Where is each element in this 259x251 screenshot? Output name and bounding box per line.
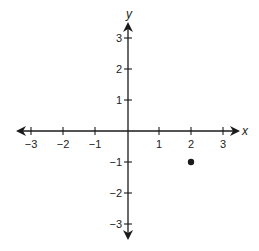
y-tick-label: −2	[109, 187, 122, 199]
x-tick-label: −1	[89, 138, 102, 150]
data-point	[188, 159, 194, 165]
y-tick-label: 1	[116, 94, 122, 106]
y-tick-label: −3	[109, 218, 122, 230]
coordinate-plane: −3 −2 −1 1 2 3 3 2 1 −1 −2 −3 x y	[0, 0, 259, 251]
x-tick-label: 2	[188, 138, 194, 150]
y-tick-label: 2	[116, 63, 122, 75]
x-tick-label: 3	[220, 138, 226, 150]
y-tick-label: −1	[109, 156, 122, 168]
x-tick-label: −2	[57, 138, 70, 150]
x-tick-label: 1	[156, 138, 162, 150]
x-tick-label: −3	[25, 138, 38, 150]
x-axis-label: x	[241, 124, 249, 138]
y-tick-label: 3	[116, 32, 122, 44]
y-axis-label: y	[125, 7, 133, 21]
